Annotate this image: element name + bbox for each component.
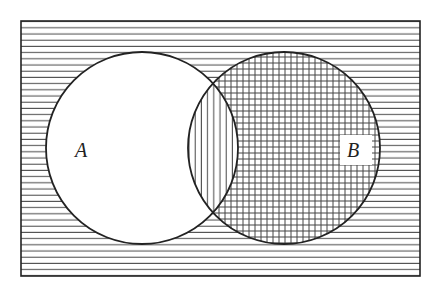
set-a-label: A [73, 139, 88, 161]
set-b-label: B [347, 139, 359, 161]
venn-diagram: A B [0, 0, 447, 289]
